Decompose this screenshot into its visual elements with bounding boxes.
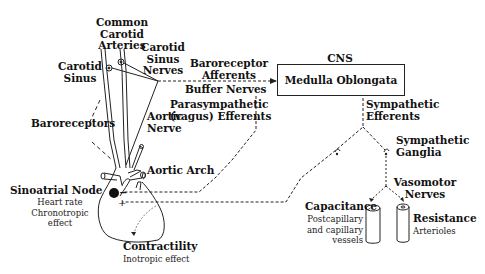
label-sinoatrial-sub: Heart rate Chronotropic effect [30, 197, 90, 229]
label-line: Carotid [58, 61, 102, 73]
label-line: and capillary [300, 225, 363, 236]
carotid-arteries-shape [101, 49, 130, 168]
label-capacitance: Capacitance [305, 201, 377, 213]
label-line: Common [82, 17, 162, 29]
label-line: Nerves [138, 65, 188, 77]
label-line: Baroreceptor [184, 58, 274, 70]
label-line: Chronotropic [30, 208, 90, 219]
label-contractility-sub: Inotropic effect [123, 254, 189, 265]
label-line: Nerves [390, 189, 460, 201]
label-sympathetic-ganglia: Sympathetic Ganglia [396, 135, 469, 158]
label-line: Aortic [147, 111, 183, 123]
label-line: Sympathetic [366, 99, 439, 111]
label-capacitance-sub: Postcapillary and capillary vessels [300, 214, 363, 246]
label-line: Vasomotor [390, 177, 460, 189]
baroreflex-diagram: Common Carotid Arteries Carotid Sinus Ca… [0, 0, 485, 274]
label-contractility: Contractility [123, 241, 197, 253]
label-line: Sympathetic [396, 135, 469, 147]
sa-plus-sign: + [118, 197, 126, 209]
label-line: Parasympathetic [170, 99, 255, 111]
resistance-vessel-shape [397, 204, 409, 242]
label-sinoatrial-node: Sinoatrial Node [10, 185, 99, 197]
label-medulla-oblongata: Medulla Oblongata [285, 74, 398, 86]
label-line: Postcapillary [300, 214, 363, 225]
medulla-oblongata-box: Medulla Oblongata [277, 64, 405, 96]
label-buffer-nerves: Buffer Nerves [185, 84, 267, 96]
label-resistance: Resistance [413, 213, 477, 225]
label-line: Heart rate [30, 197, 90, 208]
label-cns: CNS [320, 53, 360, 65]
label-line: Ganglia [396, 147, 469, 159]
label-resistance-sub: Arterioles [413, 226, 456, 237]
label-line: vessels [300, 235, 363, 246]
label-vasomotor-nerves: Vasomotor Nerves [390, 177, 460, 200]
label-baroreceptors: Baroreceptors [31, 118, 115, 130]
label-aortic-arch: Aortic Arch [147, 165, 214, 177]
label-carotid-sinus: Carotid Sinus [58, 61, 102, 84]
label-line: Afferents [184, 70, 274, 82]
label-baroreceptor-afferents: Baroreceptor Afferents [184, 58, 274, 81]
label-aortic-nerve: Aortic Nerve [147, 111, 183, 134]
label-line: Sinus [58, 73, 102, 85]
label-carotid-sinus-nerves: Carotid Sinus Nerves [138, 42, 188, 77]
label-line: Carotid [138, 42, 188, 54]
label-line: effect [30, 218, 90, 229]
label-line: Efferents [366, 111, 439, 123]
label-line: Nerve [147, 123, 183, 135]
label-sympathetic-efferents: Sympathetic Efferents [366, 99, 439, 122]
